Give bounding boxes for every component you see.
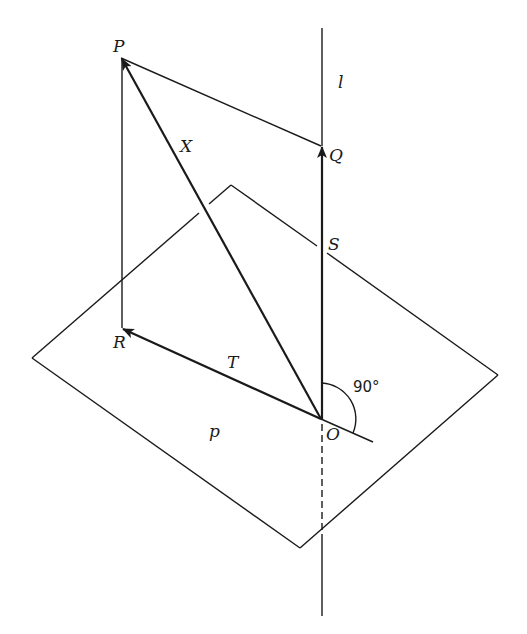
label-O: O bbox=[326, 424, 340, 444]
label-p: p bbox=[209, 421, 220, 441]
plane-edge-bottom-left bbox=[32, 358, 300, 548]
label-P: P bbox=[112, 36, 125, 56]
segment-PQ bbox=[121, 58, 321, 146]
label-X: X bbox=[178, 136, 193, 156]
vector-X bbox=[122, 59, 321, 419]
vector-T bbox=[123, 329, 321, 419]
plane-edge-top-left-upper bbox=[209, 185, 231, 204]
plane-edge-bottom-right bbox=[300, 375, 498, 548]
label-S: S bbox=[328, 234, 340, 254]
label-angle-90: 90° bbox=[353, 378, 380, 396]
label-Q: Q bbox=[329, 145, 343, 165]
plane-edge-top-right-lower bbox=[327, 253, 498, 375]
vector-projection-diagram: P Q l X S R T 90° O p bbox=[0, 0, 527, 634]
plane-p bbox=[32, 185, 498, 548]
label-l: l bbox=[338, 72, 343, 92]
label-R: R bbox=[112, 332, 126, 352]
label-T: T bbox=[227, 352, 240, 372]
plane-edge-top-right-upper bbox=[231, 185, 317, 246]
